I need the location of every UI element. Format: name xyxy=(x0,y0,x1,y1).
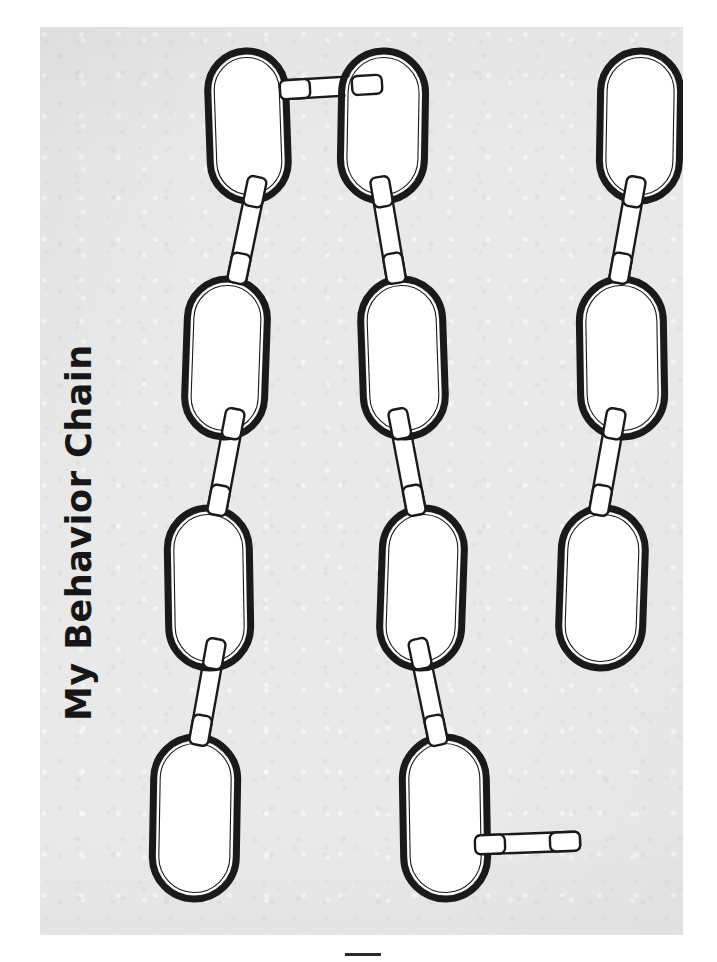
chain-connector-group-C5-tail xyxy=(383,252,407,285)
chain-link-fill-L11 xyxy=(561,511,642,666)
chain-connector-C6-tail xyxy=(402,484,426,517)
chain-link-L4[interactable] xyxy=(152,736,239,899)
chain-connector-C5-tail xyxy=(383,252,407,285)
chain-connector-C9-tail xyxy=(609,252,633,285)
paper-sheet: My Behavior Chain xyxy=(40,27,683,935)
chain-link-fill-L4 xyxy=(156,740,235,895)
chain-connector-C8-head xyxy=(475,834,506,854)
chain-connector-C3-head xyxy=(221,407,245,440)
page-title-text: My Behavior Chain xyxy=(62,344,97,721)
chain-connector-group-C8-head xyxy=(475,834,506,854)
chain-connector-C9-head xyxy=(622,175,646,208)
chain-connector-C1-tail xyxy=(351,75,382,96)
chain-connector-group-C9-tail xyxy=(609,252,633,285)
chain-connector-group-C8-tail xyxy=(550,832,581,852)
chain-connector-group-C2-tail xyxy=(227,252,252,285)
chain-connector-group-C1-tail xyxy=(351,75,382,96)
chain-connector-group-C4-tail xyxy=(189,714,213,747)
chain-connector-C4-head xyxy=(202,637,226,670)
chain-link-L8[interactable] xyxy=(402,736,489,899)
chain-link-fill-L1 xyxy=(211,54,286,198)
chain-connector-group-C6-head xyxy=(388,407,412,440)
chain-connector-group-C9-head xyxy=(622,175,646,208)
chain-connector-C2-tail xyxy=(227,252,252,285)
chain-connector-group-C3-tail xyxy=(207,484,231,517)
worksheet-page: My Behavior Chain xyxy=(0,0,717,962)
page-bottom-mark xyxy=(345,953,381,956)
chain-connector-group-C4-head xyxy=(202,637,226,670)
chain-connector-C10-head xyxy=(602,407,626,440)
chain-connector-C10-tail xyxy=(589,484,613,517)
chain-link-fill-L8 xyxy=(406,740,485,895)
chain-connector-group-C3-head xyxy=(221,407,245,440)
page-title: My Behavior Chain xyxy=(40,27,118,935)
chain-connector-group-C10-head xyxy=(602,407,626,440)
chain-connector-group-C6-tail xyxy=(402,484,426,517)
chain-connector-C4-tail xyxy=(189,714,213,747)
chain-connector-C1-head xyxy=(279,79,310,100)
chain-connector-group-C5-head xyxy=(370,175,394,208)
chain-link-fill-L9 xyxy=(603,54,677,197)
chain-connector-C5-head xyxy=(370,175,394,208)
chain-connector-C6-head xyxy=(388,407,412,440)
chain-connector-group-C1-head xyxy=(279,79,310,100)
chain-connector-C8-tail xyxy=(550,832,581,852)
behavior-chain-diagram xyxy=(40,27,683,935)
chain-connector-group-C10-tail xyxy=(589,484,613,517)
chain-link-L11[interactable] xyxy=(557,507,647,670)
chain-connector-C3-tail xyxy=(207,484,231,517)
